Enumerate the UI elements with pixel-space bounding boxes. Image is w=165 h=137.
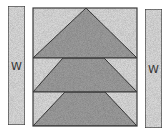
left-strip: W [8,6,25,125]
right-strip: W [145,9,162,128]
right-strip-label: W [148,63,159,76]
quilt-diagram: W W [0,0,165,137]
left-strip-label: W [11,60,22,73]
center-block [33,8,137,126]
